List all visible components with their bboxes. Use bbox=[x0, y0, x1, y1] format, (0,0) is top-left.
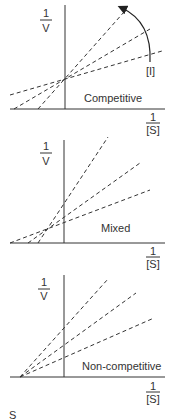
panel-non-competitive: 1 V Non-competitive 1 [S] bbox=[10, 275, 165, 405]
increasing-inhibitor-arrow-icon bbox=[122, 8, 150, 62]
footer-text-fragment: S bbox=[9, 409, 16, 420]
panel-competitive: 1 V [I] Competitive 1 [S] bbox=[10, 5, 165, 136]
panel-mixed: 1 V Mixed 1 [S] bbox=[10, 137, 165, 270]
x-axis-denominator: [S] bbox=[146, 393, 159, 405]
y-axis-denominator: V bbox=[40, 290, 48, 302]
x-axis-numerator: 1 bbox=[150, 111, 156, 123]
y-axis-denominator: V bbox=[42, 22, 50, 34]
y-axis-numerator: 1 bbox=[41, 276, 47, 288]
x-axis-numerator: 1 bbox=[150, 380, 156, 392]
plot-line-low-inhibitor bbox=[10, 51, 162, 95]
y-axis-denominator: V bbox=[42, 155, 50, 167]
x-axis-denominator: [S] bbox=[146, 124, 159, 136]
lineweaver-burk-diagram: 1 V [I] Competitive 1 [S] 1 V Mixed 1 [S… bbox=[0, 0, 169, 420]
panel-title: Competitive bbox=[84, 92, 142, 104]
panel-title: Non-competitive bbox=[82, 360, 161, 372]
x-axis-denominator: [S] bbox=[146, 258, 159, 270]
y-axis-numerator: 1 bbox=[43, 7, 49, 19]
y-axis-numerator: 1 bbox=[43, 140, 49, 152]
plot-line-low-inhibitor bbox=[10, 190, 150, 243]
x-axis-numerator: 1 bbox=[150, 245, 156, 257]
inhibitor-label: [I] bbox=[146, 65, 155, 77]
panel-title: Mixed bbox=[101, 222, 130, 234]
